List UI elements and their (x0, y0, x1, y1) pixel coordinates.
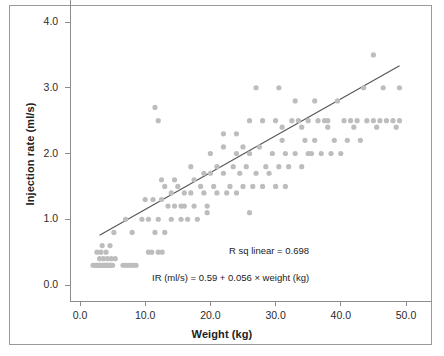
data-point (364, 118, 369, 123)
data-point (338, 151, 343, 156)
data-point (172, 204, 177, 209)
data-point (247, 210, 252, 215)
data-point (160, 250, 165, 255)
data-point (214, 190, 219, 195)
data-point (110, 263, 115, 268)
data-point (328, 151, 333, 156)
data-point (169, 190, 174, 195)
data-point (276, 164, 281, 169)
data-point (306, 118, 311, 123)
data-point (351, 125, 356, 130)
data-point (111, 230, 116, 235)
data-point (253, 85, 258, 90)
data-point (332, 138, 337, 143)
data-point (289, 118, 294, 123)
data-points-group (90, 52, 402, 268)
data-point (296, 118, 301, 123)
data-point (286, 164, 291, 169)
data-point (299, 125, 304, 130)
data-point (150, 197, 155, 202)
data-point (355, 118, 360, 123)
y-tick-label: 3.0 (18, 81, 58, 93)
data-point (325, 125, 330, 130)
data-point (273, 118, 278, 123)
data-point (133, 263, 138, 268)
data-point (319, 151, 324, 156)
data-point (335, 98, 340, 103)
data-point (175, 184, 180, 189)
data-point (361, 85, 366, 90)
x-tick-label: 40.0 (316, 309, 366, 321)
data-point (283, 151, 288, 156)
data-point (156, 118, 161, 123)
data-point (394, 125, 399, 130)
data-point (208, 151, 213, 156)
data-point (250, 184, 255, 189)
data-point (159, 197, 164, 202)
data-point (247, 151, 252, 156)
data-point (221, 171, 226, 176)
data-point (123, 217, 128, 222)
scatter-plot-figure: Injection rate (ml/s) Weight (kg) R sq l… (0, 0, 444, 356)
data-point (322, 118, 327, 123)
data-point (211, 184, 216, 189)
data-point (221, 144, 226, 149)
data-point (195, 217, 200, 222)
data-point (234, 190, 239, 195)
data-point (260, 184, 265, 189)
data-point (130, 230, 135, 235)
y-tick-label: 4.0 (18, 15, 58, 27)
data-point (169, 217, 174, 222)
data-point (172, 177, 177, 182)
data-point (280, 138, 285, 143)
x-tick-label: 0.0 (55, 309, 105, 321)
data-point (188, 164, 193, 169)
data-point (234, 151, 239, 156)
data-point (234, 131, 239, 136)
data-point (146, 217, 151, 222)
data-point (283, 184, 288, 189)
data-point (149, 250, 154, 255)
data-point (390, 118, 395, 123)
data-point (257, 144, 262, 149)
plot-canvas (0, 0, 444, 356)
regression-fit-line (100, 66, 400, 235)
data-point (221, 131, 226, 136)
data-point (162, 230, 167, 235)
data-point (247, 118, 252, 123)
y-tick-label: 2.0 (18, 147, 58, 159)
data-point (345, 138, 350, 143)
data-point (312, 98, 317, 103)
y-tick-label: 1.0 (18, 212, 58, 224)
data-point (205, 210, 210, 215)
data-point (371, 118, 376, 123)
data-point (253, 171, 258, 176)
data-point (299, 164, 304, 169)
data-point (100, 243, 105, 248)
data-point (178, 217, 183, 222)
data-point (201, 190, 206, 195)
data-point (397, 85, 402, 90)
data-point (244, 164, 249, 169)
data-point (198, 184, 203, 189)
data-point (152, 230, 157, 235)
data-point (371, 52, 376, 57)
regression-equation-annotation: IR (ml/s) = 0.59 + 0.056 × weight (kg) (152, 272, 309, 283)
data-point (152, 105, 157, 110)
data-point (266, 171, 271, 176)
data-point (374, 125, 379, 130)
data-point (143, 197, 148, 202)
data-point (182, 190, 187, 195)
data-point (384, 118, 389, 123)
data-point (165, 204, 170, 209)
data-point (381, 85, 386, 90)
data-point (293, 98, 298, 103)
x-tick-label: 30.0 (251, 309, 301, 321)
data-point (227, 184, 232, 189)
data-point (107, 243, 112, 248)
data-point (139, 217, 144, 222)
x-tick-label: 10.0 (120, 309, 170, 321)
data-point (358, 138, 363, 143)
data-point (240, 144, 245, 149)
data-point (237, 171, 242, 176)
